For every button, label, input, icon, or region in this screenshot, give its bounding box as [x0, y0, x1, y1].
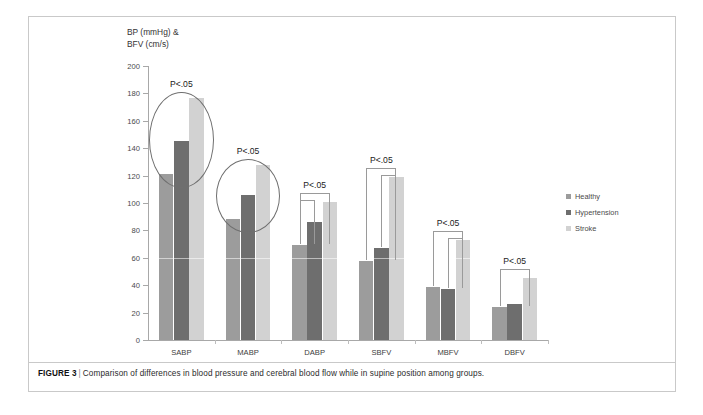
- y-axis-tick: 40: [148, 285, 149, 286]
- legend-label: Healthy: [575, 192, 600, 201]
- y-axis-tick: 180: [148, 93, 149, 94]
- bar-mbfv-healthy: [426, 287, 441, 340]
- significance-label-dabp: P<.05: [303, 180, 326, 190]
- x-axis-tick-mark: [281, 340, 282, 344]
- x-axis-tick-mark: [481, 340, 482, 344]
- y-axis-tick-mark: [143, 230, 148, 231]
- y-axis-tick-mark: [143, 340, 148, 341]
- y-axis-tick: 80: [148, 230, 149, 231]
- bar-chart-plot-area: 020406080100120140160180200SABPMABPDABPS…: [148, 66, 548, 340]
- x-axis-label-mabp: MABP: [237, 348, 259, 357]
- bar-mabp-healthy: [226, 219, 241, 340]
- y-axis-tick: 20: [148, 313, 149, 314]
- y-axis-tick: 100: [148, 203, 149, 204]
- significance-bracket-dbfv-1: [500, 269, 530, 306]
- x-axis-label-dbfv: DBFV: [505, 348, 525, 357]
- y-axis-tick-label: 140: [127, 144, 140, 153]
- caption-text: Comparison of differences in blood press…: [83, 369, 484, 378]
- y-axis-tick: 0: [148, 340, 149, 341]
- bar-dbfv-healthy: [492, 307, 507, 340]
- legend-swatch-icon: [566, 226, 571, 231]
- bar-mbfv-hypertension: [441, 289, 456, 340]
- significance-bracket-dabp-2: [300, 200, 315, 245]
- y-axis-tick-mark: [143, 66, 148, 67]
- significance-ellipse-mabp: [216, 159, 281, 234]
- x-axis-label-dabp: DABP: [304, 348, 325, 357]
- bar-sbfv-hypertension: [374, 248, 389, 340]
- significance-ellipse-sabp: [149, 92, 214, 189]
- significance-label-sabp: P<.05: [170, 79, 193, 89]
- y-axis-tick-label: 160: [127, 116, 140, 125]
- y-axis-tick-label: 0: [136, 336, 140, 345]
- significance-label-mabp: P<.05: [237, 146, 260, 156]
- figure-number: FIGURE 3: [38, 369, 77, 378]
- y-axis-tick-label: 40: [132, 281, 140, 290]
- y-axis-tick-label: 20: [132, 308, 140, 317]
- y-axis-tick-mark: [143, 313, 148, 314]
- y-axis-tick-label: 100: [127, 199, 140, 208]
- legend-item-healthy: Healthy: [566, 192, 619, 201]
- y-axis-tick-label: 60: [132, 253, 140, 262]
- y-axis-tick-mark: [143, 285, 148, 286]
- significance-label-dbfv: P<.05: [503, 256, 526, 266]
- y-axis-tick-label: 180: [127, 89, 140, 98]
- y-axis-tick-mark: [143, 121, 148, 122]
- y-axis-tick-mark: [143, 203, 148, 204]
- figure-page: BP (mmHg) & BFV (cm/s) 02040608010012014…: [0, 0, 703, 415]
- x-axis-label-sabp: SABP: [171, 348, 191, 357]
- soft-gridline: [149, 258, 548, 259]
- y-axis-tick-label: 80: [132, 226, 140, 235]
- y-axis-tick-mark: [143, 258, 148, 259]
- bar-dbfv-hypertension: [507, 304, 522, 340]
- y-axis-tick-mark: [143, 93, 148, 94]
- y-axis-tick: 200: [148, 66, 149, 67]
- legend-item-stroke: Stroke: [566, 224, 619, 233]
- caption-divider: [28, 362, 676, 363]
- figure-caption: FIGURE 3|Comparison of differences in bl…: [38, 369, 668, 378]
- y-axis-title-line-2: BFV (cm/s): [127, 39, 179, 51]
- y-axis-tick-label: 120: [127, 171, 140, 180]
- legend-label: Hypertension: [575, 208, 619, 217]
- chart-legend: HealthyHypertensionStroke: [566, 192, 619, 240]
- y-axis-title: BP (mmHg) & BFV (cm/s): [127, 27, 179, 50]
- significance-label-sbfv: P<.05: [370, 155, 393, 165]
- y-axis-tick: 120: [148, 176, 149, 177]
- x-axis-tick-mark: [348, 340, 349, 344]
- legend-label: Stroke: [575, 224, 596, 233]
- x-axis-tick-mark: [215, 340, 216, 344]
- x-axis-label-mbfv: MBFV: [437, 348, 458, 357]
- y-axis-tick: 160: [148, 121, 149, 122]
- y-axis-tick-label: 200: [127, 62, 140, 71]
- x-axis-tick-mark: [415, 340, 416, 344]
- x-axis-label-sbfv: SBFV: [371, 348, 391, 357]
- y-axis-tick-mark: [143, 176, 148, 177]
- legend-swatch-icon: [566, 194, 571, 199]
- x-axis-tick-mark: [548, 340, 549, 344]
- y-axis-title-line-1: BP (mmHg) &: [127, 27, 179, 39]
- significance-label-mbfv: P<.05: [437, 218, 460, 228]
- y-axis-tick-mark: [143, 148, 148, 149]
- bar-sbfv-healthy: [359, 261, 374, 340]
- legend-item-hypertension: Hypertension: [566, 208, 619, 217]
- legend-swatch-icon: [566, 210, 571, 215]
- bar-dabp-healthy: [292, 245, 307, 340]
- significance-bracket-sbfv-2: [381, 175, 396, 247]
- significance-bracket-mbfv-2: [448, 238, 463, 288]
